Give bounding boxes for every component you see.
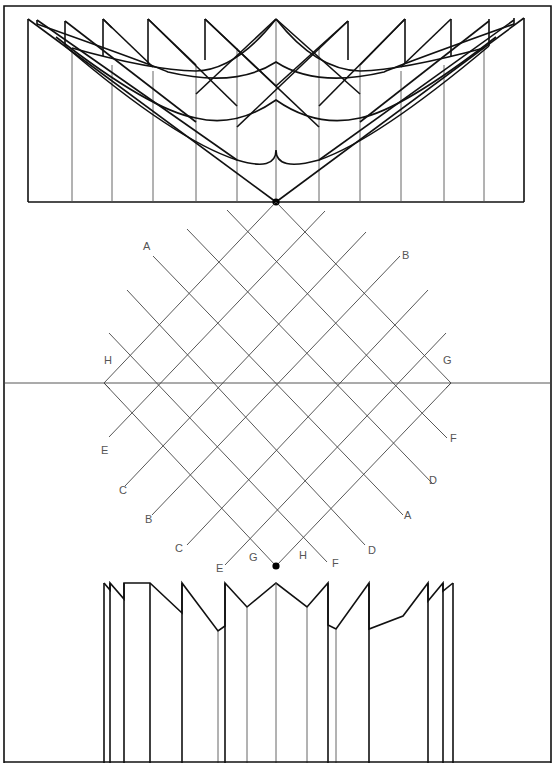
top-panel-popup-view bbox=[28, 18, 524, 206]
bottom-panel-folded-view bbox=[4, 583, 551, 763]
label-a-lower: A bbox=[404, 509, 412, 521]
label-a-upper: A bbox=[143, 240, 151, 252]
label-c-left: C bbox=[119, 484, 127, 496]
bottom-pivot-dot bbox=[272, 562, 279, 569]
label-g-lower: G bbox=[249, 551, 258, 563]
label-g-right: G bbox=[443, 354, 452, 366]
bottom-panel-heavy-verticals bbox=[104, 583, 453, 763]
label-f-right: F bbox=[450, 432, 457, 444]
label-h-left: H bbox=[104, 354, 112, 366]
label-c-lower: C bbox=[175, 542, 183, 554]
top-panel-diagonals-left bbox=[28, 19, 360, 202]
top-panel-curves bbox=[37, 19, 514, 164]
bottom-panel-thin-verticals bbox=[218, 583, 336, 763]
label-e-lower: E bbox=[216, 562, 223, 574]
label-b-lower: B bbox=[145, 513, 152, 525]
label-b-upper: B bbox=[402, 249, 409, 261]
label-f-lower: F bbox=[332, 557, 339, 569]
diamond-fold-lattice bbox=[104, 202, 451, 566]
label-d-right: D bbox=[429, 474, 437, 486]
label-h-lower: H bbox=[299, 549, 307, 561]
lattice-labels: A B H G E F C D B A C D E G H F bbox=[101, 240, 457, 574]
bottom-panel-zigzag bbox=[104, 583, 453, 631]
label-e-left: E bbox=[101, 444, 108, 456]
label-d-lower: D bbox=[368, 544, 376, 556]
fold-pattern-diagram: A B H G E F C D B A C D E G H F bbox=[0, 0, 556, 763]
